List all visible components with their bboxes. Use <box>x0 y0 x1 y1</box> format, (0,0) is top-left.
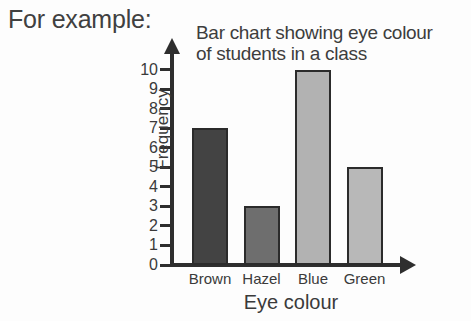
plot-area: 109876543210 BrownHazelBlueGreen Frequen… <box>0 0 471 321</box>
x-axis-arrow-icon <box>400 256 416 274</box>
bar-blue <box>295 70 331 266</box>
y-axis-tick <box>160 185 171 188</box>
y-axis-tick <box>160 264 171 267</box>
bar-brown <box>192 128 228 265</box>
x-axis-title: Eye colour <box>196 290 386 314</box>
y-axis-tick-label: 0 <box>134 257 158 273</box>
y-axis-tick <box>160 68 171 71</box>
y-axis-tick-label-wrap: 3 <box>130 198 158 214</box>
y-axis-tick-label: 3 <box>134 198 158 214</box>
chart-figure: For example: Bar chart showing eye colou… <box>0 0 471 321</box>
y-axis-tick-label-wrap: 1 <box>130 237 158 253</box>
y-axis-arrow-icon <box>164 38 180 54</box>
y-axis-title: Frequency <box>153 75 172 185</box>
y-axis-tick-label: 2 <box>134 218 158 234</box>
y-axis-tick-label: 1 <box>134 237 158 253</box>
y-axis-tick <box>160 205 171 208</box>
x-axis-label-green: Green <box>335 270 395 287</box>
y-axis-tick-label-wrap: 0 <box>130 257 158 273</box>
bar-hazel <box>244 206 280 265</box>
y-axis-tick <box>160 244 171 247</box>
bar-green <box>347 167 383 265</box>
y-axis-tick-label-wrap: 2 <box>130 218 158 234</box>
y-axis-tick <box>160 224 171 227</box>
